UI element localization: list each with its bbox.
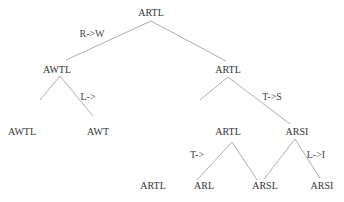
- tree-diagram: ARTLAWTLARTLAWTLAWTARTLARSIARTLARLARSLAR…: [0, 0, 344, 202]
- tree-node: ARTL: [140, 181, 166, 191]
- tree-edges: [0, 0, 344, 202]
- tree-edge: [66, 21, 151, 60]
- tree-node: ARTL: [215, 65, 241, 75]
- edge-label: T->: [190, 150, 204, 160]
- tree-edge: [200, 77, 228, 100]
- tree-node: AWTL: [8, 127, 36, 137]
- tree-node: ARL: [194, 181, 214, 191]
- tree-node: ARTL: [138, 8, 164, 18]
- tree-edge: [264, 139, 295, 179]
- tree-edge: [40, 76, 60, 100]
- edge-label: R->W: [79, 29, 104, 39]
- tree-node: AWT: [87, 127, 109, 137]
- tree-edge: [197, 142, 232, 180]
- edge-label: T->S: [262, 92, 282, 102]
- edge-label: L->: [80, 92, 95, 102]
- tree-edge: [232, 142, 257, 180]
- tree-node: ARTL: [215, 127, 241, 137]
- tree-edge: [151, 21, 226, 61]
- tree-node: AWTL: [43, 65, 71, 75]
- edge-label: L->I: [307, 150, 325, 160]
- tree-node: ARSI: [286, 127, 309, 137]
- tree-node: ARSI: [311, 181, 334, 191]
- tree-node: ARSL: [252, 181, 278, 191]
